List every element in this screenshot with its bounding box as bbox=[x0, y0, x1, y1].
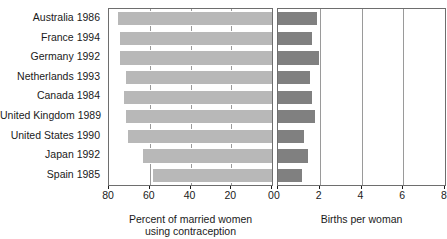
bar-row bbox=[278, 146, 445, 166]
right-axis-ticks: 02468 bbox=[277, 186, 444, 198]
category-label: Spain 1985 bbox=[0, 165, 104, 185]
axis-tick-label: 60 bbox=[143, 189, 155, 201]
bar-row bbox=[278, 48, 445, 68]
bar-row bbox=[278, 87, 445, 107]
bar-births bbox=[278, 168, 303, 183]
axis-tick-label: 2 bbox=[316, 189, 322, 201]
bar-contraception bbox=[119, 31, 272, 46]
bar-births bbox=[278, 109, 316, 124]
bar-row bbox=[278, 107, 445, 127]
bar-births bbox=[278, 50, 320, 65]
bar-births bbox=[278, 11, 318, 26]
right-axis-title: Births per woman bbox=[277, 213, 446, 225]
bar-row bbox=[109, 9, 272, 29]
bar-contraception bbox=[125, 109, 272, 124]
category-label: United States 1990 bbox=[0, 126, 104, 146]
bar-row bbox=[278, 166, 445, 186]
axis-tick-label: 20 bbox=[224, 189, 236, 201]
left-axis-title-line1: Percent of married women bbox=[108, 213, 273, 225]
bar-row bbox=[109, 68, 272, 88]
axis-tick-label: 8 bbox=[441, 189, 447, 201]
category-label: Japan 1992 bbox=[0, 145, 104, 165]
bar-row bbox=[109, 29, 272, 49]
category-label-column: Australia 1986France 1994Germany 1992Net… bbox=[0, 8, 104, 184]
left-axis-ticks: 806040200 bbox=[108, 186, 271, 198]
bar-contraception bbox=[152, 168, 272, 183]
bar-row bbox=[109, 166, 272, 186]
bar-row bbox=[109, 127, 272, 147]
bar-row bbox=[109, 87, 272, 107]
bar-row bbox=[109, 107, 272, 127]
bar-row bbox=[278, 68, 445, 88]
paired-bar-chart: Australia 1986France 1994Germany 1992Net… bbox=[0, 0, 447, 239]
category-label: Netherlands 1993 bbox=[0, 67, 104, 87]
right-panel-births bbox=[277, 8, 446, 186]
bar-contraception bbox=[142, 148, 272, 163]
bar-contraception bbox=[127, 129, 272, 144]
axis-tick-label: 40 bbox=[184, 189, 196, 201]
bar-contraception bbox=[125, 70, 272, 85]
bar-row bbox=[109, 48, 272, 68]
axis-tick-label: 0 bbox=[268, 189, 274, 201]
category-label: United Kingdom 1989 bbox=[0, 106, 104, 126]
bar-row bbox=[278, 127, 445, 147]
axis-tick-label: 0 bbox=[274, 189, 280, 201]
bar-births bbox=[278, 90, 313, 105]
category-label: France 1994 bbox=[0, 28, 104, 48]
left-axis-title: Percent of married women using contracep… bbox=[108, 213, 273, 237]
category-label: Germany 1992 bbox=[0, 47, 104, 67]
left-axis-title-line2: using contraception bbox=[108, 225, 273, 237]
axis-tick-label: 4 bbox=[358, 189, 364, 201]
bar-contraception bbox=[123, 90, 272, 105]
category-label: Australia 1986 bbox=[0, 8, 104, 28]
bar-births bbox=[278, 148, 309, 163]
bar-births bbox=[278, 70, 311, 85]
bar-row bbox=[109, 146, 272, 166]
right-axis-title-line1: Births per woman bbox=[277, 213, 446, 225]
bar-births bbox=[278, 31, 313, 46]
bar-contraception bbox=[119, 50, 272, 65]
bar-row bbox=[278, 9, 445, 29]
bar-contraception bbox=[117, 11, 272, 26]
axis-tick-label: 80 bbox=[102, 189, 114, 201]
axis-tick-label: 6 bbox=[399, 189, 405, 201]
bar-births bbox=[278, 129, 305, 144]
bar-row bbox=[278, 29, 445, 49]
category-label: Canada 1984 bbox=[0, 86, 104, 106]
left-panel-contraception bbox=[108, 8, 273, 186]
